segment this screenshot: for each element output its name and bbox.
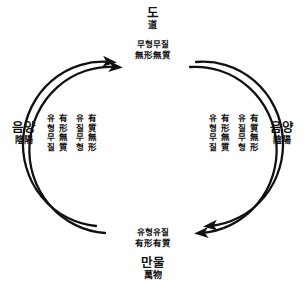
node-do: 도 道 [0, 6, 306, 30]
inner-right-pair-1: 유질무형 有質無形 [235, 114, 258, 152]
node-do-hanja: 道 [0, 20, 306, 30]
inner-right-pair-0: 유형무질 有形無質 [206, 114, 229, 152]
label-eumyang-right-hanja: 陰陽 [260, 135, 304, 145]
inner-right-1-hanja: 有質無形 [247, 114, 258, 152]
inner-left-pair-0: 유형무질 有形無質 [44, 114, 67, 152]
label-eumyang-left: 음양 陰陽 [2, 121, 46, 145]
state-top-hanja: 無形無質 [0, 50, 306, 61]
inner-left-0-hanja: 有形無質 [56, 114, 67, 152]
state-top: 무형무질 無形無質 [0, 39, 306, 60]
state-bottom-hanja: 有形有質 [0, 238, 306, 249]
inner-columns-left: 유형무질 有形無質 유질무형 有質無形 [44, 114, 96, 152]
node-do-korean: 도 [0, 6, 306, 20]
inner-right-1-korean: 유질무형 [235, 114, 246, 152]
state-bottom-korean: 유형유질 [0, 227, 306, 238]
cycle-diagram: 도 道 무형무질 無形無質 유형유질 有形有質 만물 萬物 음양 陰陽 음양 陰… [0, 0, 306, 303]
inner-right-0-hanja: 有形無質 [218, 114, 229, 152]
inner-right-0-korean: 유형무질 [206, 114, 217, 152]
label-eumyang-right-korean: 음양 [260, 121, 304, 135]
inner-left-0-korean: 유형무질 [44, 114, 55, 152]
node-manmul: 만물 萬物 [0, 256, 306, 280]
label-eumyang-left-korean: 음양 [2, 121, 46, 135]
inner-left-1-korean: 유질무형 [73, 114, 84, 152]
inner-columns-right: 유형무질 有形無質 유질무형 有質無形 [206, 114, 258, 152]
inner-left-pair-1: 유질무형 有質無形 [73, 114, 96, 152]
state-bottom: 유형유질 有形有質 [0, 227, 306, 248]
node-manmul-korean: 만물 [0, 256, 306, 270]
label-eumyang-right: 음양 陰陽 [260, 121, 304, 145]
inner-left-1-hanja: 有質無形 [85, 114, 96, 152]
node-manmul-hanja: 萬物 [0, 270, 306, 280]
label-eumyang-left-hanja: 陰陽 [2, 135, 46, 145]
state-top-korean: 무형무질 [0, 39, 306, 50]
